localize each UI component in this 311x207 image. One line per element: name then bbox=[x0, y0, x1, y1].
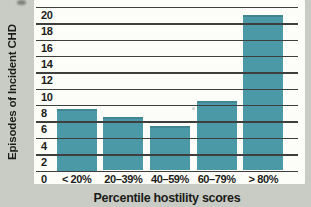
x-category-label: > 80% bbox=[233, 174, 293, 185]
gridline-y-10 bbox=[36, 89, 298, 90]
bar-5 bbox=[243, 15, 283, 170]
y-tick-label: 10 bbox=[41, 92, 52, 103]
scanned-bar-chart-figure: Episodes of Incident CHD 024681012141618… bbox=[0, 0, 311, 207]
gridline-y-6 bbox=[36, 121, 298, 122]
y-tick-label: 16 bbox=[41, 43, 52, 54]
gridline-y-12 bbox=[36, 72, 298, 73]
x-axis-title: Percentile hostility scores bbox=[36, 191, 298, 205]
y-tick-label: 8 bbox=[41, 108, 47, 119]
y-tick-label: 12 bbox=[41, 75, 52, 86]
y-tick-label: 6 bbox=[41, 124, 47, 135]
y-tick-label: 2 bbox=[41, 157, 47, 168]
gridline-y-0 bbox=[36, 171, 298, 172]
bar-4 bbox=[197, 101, 237, 170]
y-tick-label: 4 bbox=[41, 141, 47, 152]
y-axis-title: Episodes of Incident CHD bbox=[1, 0, 23, 184]
bar-2 bbox=[103, 117, 143, 170]
gridline-y-2 bbox=[36, 154, 298, 155]
gridline-y-18 bbox=[36, 23, 298, 24]
bar-3 bbox=[150, 126, 190, 171]
gridline-y-14 bbox=[36, 56, 298, 57]
gridline-y-20 bbox=[36, 7, 298, 8]
scan-speck bbox=[192, 107, 195, 110]
y-tick-label: 14 bbox=[41, 59, 52, 70]
gridline-y-4 bbox=[36, 138, 298, 139]
gridline-y-8 bbox=[36, 105, 298, 106]
y-tick-label: 18 bbox=[41, 26, 52, 37]
gridline-y-16 bbox=[36, 40, 298, 41]
bar-1 bbox=[57, 109, 97, 170]
y-tick-label: 20 bbox=[41, 10, 52, 21]
